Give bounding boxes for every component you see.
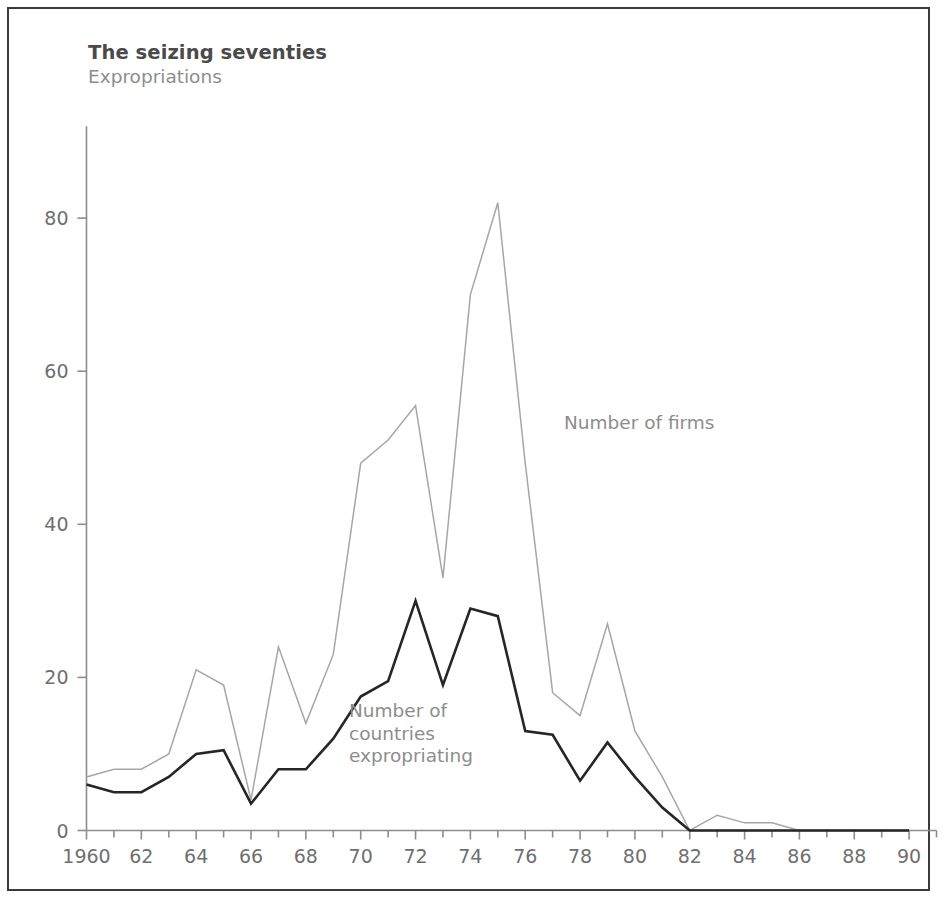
y-axis-tick-label: 20 — [0, 666, 69, 688]
x-axis-tick-label: 74 — [458, 845, 482, 867]
series-label-countries-line2: countries — [349, 723, 435, 744]
series-label-firms: Number of firms — [564, 412, 715, 435]
x-axis-tick-label: 86 — [787, 845, 811, 867]
series-line-countries — [87, 601, 910, 831]
series-label-countries: Number of countries expropriating — [349, 700, 473, 768]
x-axis-tick-label: 68 — [294, 845, 318, 867]
y-axis-tick-label: 0 — [0, 820, 69, 842]
x-axis-tick-label: 90 — [897, 845, 921, 867]
x-axis-tick-label: 78 — [568, 845, 592, 867]
x-axis-tick-label: 76 — [513, 845, 537, 867]
series-line-firms — [87, 203, 910, 831]
x-axis-tick-label: 72 — [403, 845, 427, 867]
axis-group — [78, 126, 937, 839]
x-axis-tick-label: 62 — [129, 845, 153, 867]
series-label-countries-line1: Number of — [349, 700, 447, 721]
x-axis-tick-label: 66 — [239, 845, 263, 867]
y-axis-tick-label: 40 — [0, 513, 69, 535]
x-axis-tick-label: 70 — [349, 845, 373, 867]
line-chart — [0, 0, 944, 907]
y-axis-tick-label: 60 — [0, 360, 69, 382]
x-axis-tick-label: 80 — [623, 845, 647, 867]
x-axis-tick-label: 1960 — [62, 845, 110, 867]
series-group — [87, 203, 910, 831]
x-axis-tick-label: 88 — [842, 845, 866, 867]
series-label-countries-line3: expropriating — [349, 745, 473, 766]
x-axis-tick-label: 84 — [732, 845, 756, 867]
y-axis-tick-label: 80 — [0, 207, 69, 229]
figure-container: The seizing seventies Expropriations 020… — [0, 0, 944, 907]
x-axis-tick-label: 82 — [678, 845, 702, 867]
x-axis-tick-label: 64 — [184, 845, 208, 867]
